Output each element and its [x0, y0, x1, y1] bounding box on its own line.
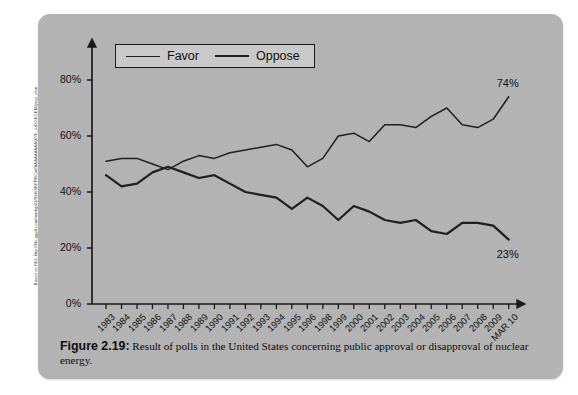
legend-label-oppose: Oppose	[256, 49, 300, 63]
y-tick-label: 0%	[47, 297, 81, 309]
y-tick-label: 80%	[47, 73, 81, 85]
series-line-oppose	[106, 167, 509, 240]
y-tick-label: 60%	[47, 129, 81, 141]
line-swatch-thick-icon	[215, 55, 249, 57]
figure-caption-text: Result of polls in the United States con…	[60, 340, 528, 366]
series-line-favor	[106, 97, 509, 170]
y-tick-label: 40%	[47, 185, 81, 197]
legend-label-favor: Favor	[167, 49, 199, 63]
favor-endpoint-label: 74%	[497, 77, 519, 89]
oppose-endpoint-label: 23%	[497, 248, 519, 260]
legend-entry-favor: Favor	[126, 49, 199, 63]
figure-number-label: Figure 2.19:	[60, 339, 130, 353]
chart-legend: Favor Oppose	[115, 44, 315, 68]
chart-plot-area: 0%20%40%60%80% 1983198419851986198719881…	[38, 14, 563, 326]
figure-panel: 0%20%40%60%80% 1983198419851986198719881…	[38, 14, 563, 379]
y-tick-label: 20%	[47, 241, 81, 253]
legend-entry-oppose: Oppose	[215, 49, 300, 63]
figure-caption: Figure 2.19: Result of polls in the Unit…	[60, 339, 530, 367]
line-swatch-thin-icon	[126, 56, 160, 57]
